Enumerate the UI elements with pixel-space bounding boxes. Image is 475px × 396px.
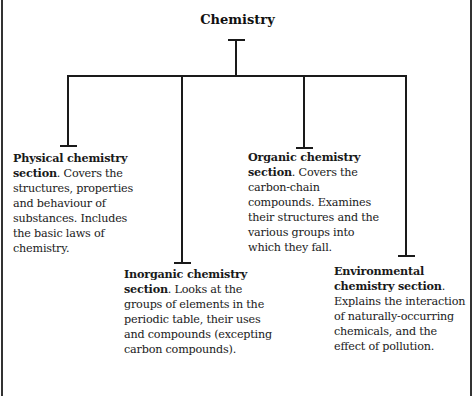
branch-organic-stem [303,75,305,148]
section-environmental-heading: Environmental chemistry section [334,264,442,293]
section-inorganic: Inorganic chemistry section. Looks at th… [124,267,274,357]
root-node-title: Chemistry [0,12,475,27]
branch-inorganic-stem [181,75,183,263]
branch-inorganic-cap [174,262,191,264]
section-organic-body: Covers the carbon-chain compounds. Exami… [248,166,379,254]
section-environmental-body: Explains the interaction of naturally-oc… [334,295,465,353]
section-physical: Physical chemistry section. Covers the s… [13,151,148,256]
section-organic: Organic chemistry section. Covers the ca… [248,150,388,255]
branch-physical-stem [67,75,69,146]
branch-physical-cap [60,145,77,147]
branch-environmental-cap [398,255,415,257]
branch-environmental-stem [405,75,407,256]
section-physical-body: Covers the structures, properties and be… [13,167,133,255]
section-environmental: Environmental chemistry section. Explain… [334,264,466,354]
root-stem [235,40,237,76]
branch-organic-cap [296,147,313,149]
branch-bar [67,75,407,77]
